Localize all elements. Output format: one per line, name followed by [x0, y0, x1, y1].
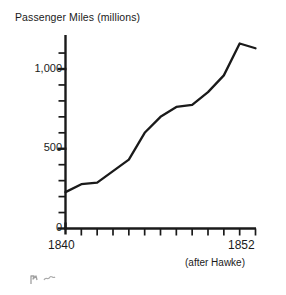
y-axis-tick-label-500: 500 [44, 141, 62, 153]
chart-figure: Passenger Miles (millions) 1,000 500 0 1… [0, 0, 286, 295]
axes-group [64, 35, 256, 229]
x-axis-tick-label-1840: 1840 [48, 238, 75, 252]
source-attribution-note: (after Hawke) [185, 257, 245, 268]
chart-title: Passenger Miles (millions) [15, 11, 140, 23]
scan-artifact-mark [28, 272, 60, 286]
data-series-line [66, 43, 256, 192]
x-axis-tick-label-1852: 1852 [228, 238, 255, 252]
y-axis-tick-label-1000: 1,000 [34, 62, 62, 74]
y-axis-tick-label-0: 0 [56, 221, 62, 233]
